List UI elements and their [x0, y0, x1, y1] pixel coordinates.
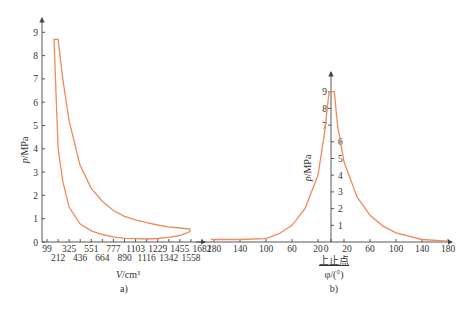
panel-a: 0123456789 99325551777110312291455168221…: [19, 18, 212, 295]
x-tick-label: 60: [287, 244, 297, 254]
y-tick-label: 2: [338, 204, 343, 214]
panel-a-y-ticks: 0123456789: [33, 28, 45, 248]
panel-a-x-label: V/cm³: [116, 269, 140, 280]
x-tick-label: 212: [51, 253, 66, 263]
y-tick-label: 0: [33, 238, 38, 248]
x-tick-label: 664: [95, 253, 110, 263]
y-tick-label: 9: [33, 28, 38, 38]
x-tick-label: 1342: [159, 253, 178, 263]
y-tick-label: 2: [33, 191, 38, 201]
x-tick-label: 100: [259, 244, 274, 254]
y-tick-label: 1: [33, 214, 38, 224]
y-tick-label: 5: [33, 121, 38, 131]
x-tick-label: 20: [342, 244, 352, 254]
x-tick-label: 890: [117, 253, 132, 263]
figure: 0123456789 99325551777110312291455168221…: [0, 0, 464, 311]
y-tick-label: 6: [33, 98, 38, 108]
panel-b-y-ticks: 789123456: [322, 87, 343, 231]
x-tick-label: 140: [415, 244, 430, 254]
x-tick-label: 1116: [137, 253, 156, 263]
x-tick-label: 180: [441, 244, 456, 254]
panel-a-panel-label: a): [120, 283, 128, 295]
x-tick-label: 1558: [181, 253, 200, 263]
x-tick-label: 60: [365, 244, 375, 254]
panel-a-x-ticks: 9932555177711031229145516822124366648901…: [42, 239, 212, 263]
x-tick-label: 180: [207, 244, 222, 254]
panel-b-panel-label: b): [330, 283, 338, 295]
y-tick-label: 8: [33, 51, 38, 61]
x-tick-label: 436: [73, 253, 88, 263]
panel-b-pressure-curve: [211, 92, 448, 242]
panel-b-x-ticks: 180140100602002060100140180: [207, 239, 456, 254]
y-tick-label: 4: [338, 171, 343, 181]
x-tick-label: 0: [324, 244, 329, 254]
x-tick-label: 140: [233, 244, 248, 254]
panel-a-y-label: p/MPa: [19, 136, 30, 164]
panel-b-tdc-annotation: 上止点: [319, 255, 349, 266]
x-tick-label: 20: [313, 244, 323, 254]
y-tick-label: 3: [33, 168, 38, 178]
y-tick-label: 3: [338, 187, 343, 197]
panel-a-pv-loop: [54, 39, 190, 239]
y-tick-label: 4: [33, 144, 38, 154]
y-tick-label: 7: [33, 74, 38, 84]
panel-b: 789123456 180140100602002060100140180 p/…: [196, 72, 455, 295]
panel-b-y-label: p/MPa: [302, 154, 313, 182]
x-tick-label: 100: [389, 244, 404, 254]
y-tick-label: 1: [338, 221, 343, 231]
y-tick-label: 9: [322, 87, 327, 97]
panel-b-x-label: φ/(°): [324, 269, 343, 281]
